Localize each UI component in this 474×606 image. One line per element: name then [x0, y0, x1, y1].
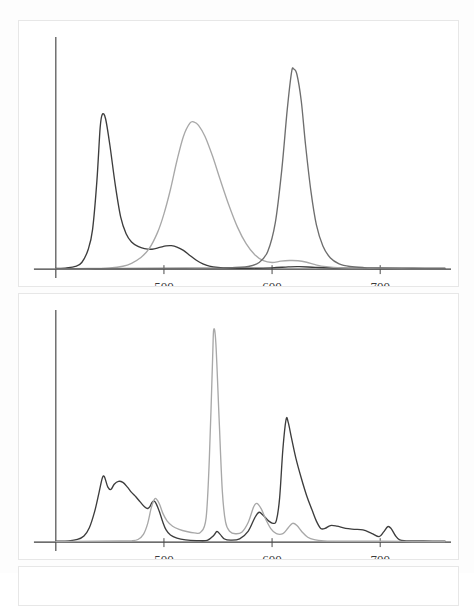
bottom-panel: 500600700	[18, 293, 459, 560]
x-tick-label: 700	[370, 552, 389, 559]
x-tick-label: 500	[154, 279, 173, 286]
top-panel-chart: 500600700	[19, 21, 458, 286]
spectrum-curve-emission-light	[56, 329, 445, 542]
x-tick-label: 500	[154, 552, 173, 559]
x-tick-label: 600	[262, 279, 281, 286]
bottom-panel-chart: 500600700	[19, 294, 458, 559]
spectrum-curve-absorption-light	[56, 122, 445, 269]
x-tick-label: 600	[262, 552, 281, 559]
top-panel: 500600700	[18, 20, 459, 287]
spectrum-curve-absorption-mid	[56, 68, 445, 269]
spectrum-curve-emission-dark	[56, 418, 445, 542]
spectrum-curve-absorption-dark	[56, 114, 445, 269]
next-panel-stub	[18, 566, 459, 606]
x-tick-label: 700	[370, 279, 389, 286]
